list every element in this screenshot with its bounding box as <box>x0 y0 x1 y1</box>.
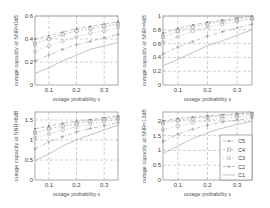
x-axis-label: outage probability ε <box>53 191 101 197</box>
y-tick-label: 0.5 <box>153 162 162 168</box>
x-tick-label: 0.1 <box>174 87 183 93</box>
y-axis-label: outage capacity at SNR=4dB <box>141 15 147 86</box>
y-tick-label: 0 <box>30 177 34 183</box>
y-tick-label: 0.6 <box>25 13 34 19</box>
y-tick-label: 1 <box>158 147 162 153</box>
legend-entry-C1: C1 <box>238 172 245 178</box>
y-tick-label: 2 <box>158 118 162 124</box>
x-tick-label: 0.1 <box>45 87 54 93</box>
x-tick-label: 0.3 <box>233 87 242 93</box>
x-tick-label: 0.3 <box>100 182 109 188</box>
x-axis-label: outage probability ε <box>184 96 232 102</box>
chart-panel-1: 0.10.20.300.20.40.6outage probability εo… <box>13 13 120 102</box>
x-tick-label: 0.3 <box>100 87 109 93</box>
legend-entry-C2: C2 <box>238 164 245 170</box>
x-tick-label: 0.2 <box>72 182 81 188</box>
chart-panel-3: 0.10.20.300.511.5outage probability εout… <box>13 110 120 197</box>
x-tick-label: 0.2 <box>203 182 212 188</box>
chart-panel-2: 0.10.20.300.20.40.60.81outage probabilit… <box>141 13 254 102</box>
legend: C5C4C3C2C1 <box>220 135 252 180</box>
x-tick-label: 0.2 <box>203 87 212 93</box>
y-tick-label: 0 <box>158 177 162 183</box>
x-axis-label: outage probability ε <box>184 191 232 197</box>
y-tick-label: 0.4 <box>25 36 34 42</box>
x-tick-label: 0.1 <box>45 182 54 188</box>
x-tick-label: 0.2 <box>72 87 81 93</box>
legend-entry-C4: C4 <box>238 147 245 153</box>
y-tick-label: 0.4 <box>153 54 162 60</box>
y-tick-label: 0.2 <box>25 59 34 65</box>
y-tick-label: 0.6 <box>153 41 162 47</box>
y-tick-label: 1.5 <box>25 117 34 123</box>
y-tick-label: 1.5 <box>153 133 162 139</box>
y-axis-label: outage capacity at SNR=8dB <box>13 110 19 181</box>
y-tick-label: 0 <box>158 82 162 88</box>
x-tick-label: 0.1 <box>174 182 183 188</box>
x-tick-label: 0.3 <box>233 182 242 188</box>
y-axis-label: outage capacity at SNR=12dB <box>141 109 147 183</box>
x-axis-label: outage probability ε <box>53 96 101 102</box>
y-tick-label: 0.2 <box>153 68 162 74</box>
legend-entry-C5: C5 <box>238 138 245 144</box>
legend-entry-C3: C3 <box>238 155 245 161</box>
y-tick-label: 0 <box>30 82 34 88</box>
y-tick-label: 0.5 <box>25 157 34 163</box>
y-tick-label: 1 <box>158 13 162 19</box>
y-axis-label: outage capacity at SNR=0dB <box>13 15 19 86</box>
y-tick-label: 0.8 <box>153 27 162 33</box>
figure: 0.10.20.300.20.40.6outage probability εo… <box>0 0 270 208</box>
